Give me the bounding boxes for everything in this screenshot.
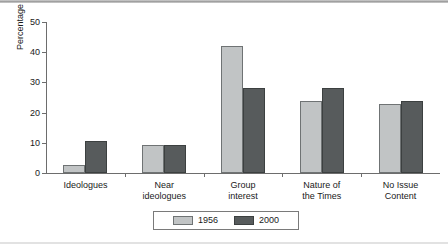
x-axis-category-line: Group — [204, 180, 283, 191]
x-axis-category-line: interest — [204, 191, 283, 202]
y-axis-line — [46, 22, 47, 173]
x-axis-tick — [282, 173, 283, 177]
x-axis-category-label: Ideologues — [46, 180, 125, 191]
bar-1956-3 — [300, 101, 322, 173]
y-axis-tick-label: 20 — [30, 108, 40, 117]
x-axis-category-line: the Times — [282, 191, 361, 202]
bar-2000-4 — [401, 101, 423, 173]
x-axis-tick — [125, 173, 126, 177]
x-axis-category-line: No Issue — [361, 180, 440, 191]
bar-group — [63, 22, 107, 173]
bar-group — [379, 22, 423, 173]
bar-1956-2 — [221, 46, 243, 173]
x-axis-category-line: Nature of — [282, 180, 361, 191]
y-axis-tick — [42, 173, 46, 174]
top-edge-band — [0, 0, 448, 3]
x-axis-category-label: Groupinterest — [204, 180, 283, 202]
y-axis-title-text: Percentage — [15, 4, 25, 50]
y-axis-tick-label: 30 — [30, 78, 40, 87]
y-axis-tick — [42, 143, 46, 144]
x-axis-category-label: Nature ofthe Times — [282, 180, 361, 202]
bar-1956-1 — [142, 145, 164, 173]
bar-group — [142, 22, 186, 173]
x-axis-tick — [361, 173, 362, 177]
y-axis-tick-label: 40 — [30, 48, 40, 57]
x-axis-line — [46, 173, 440, 174]
y-axis-tick — [42, 113, 46, 114]
chart-legend: 1956 2000 — [153, 211, 299, 230]
chart-figure: Percentage 01020304050IdeologuesNearideo… — [0, 0, 448, 244]
legend-item-2000: 2000 — [234, 216, 279, 225]
bar-1956-4 — [379, 104, 401, 173]
x-axis-tick — [204, 173, 205, 177]
x-axis-category-line: Ideologues — [46, 180, 125, 191]
bar-group — [221, 22, 265, 173]
bar-2000-0 — [85, 141, 107, 173]
legend-swatch-2000 — [234, 216, 254, 225]
x-axis-category-label: Nearideologues — [125, 180, 204, 202]
y-axis-tick — [42, 22, 46, 23]
x-axis-category-line: ideologues — [125, 191, 204, 202]
y-axis-tick-label: 10 — [30, 138, 40, 147]
x-axis-category-line: Near — [125, 180, 204, 191]
y-axis-tick — [42, 52, 46, 53]
legend-item-1956: 1956 — [173, 216, 218, 225]
x-axis-category-line: Content — [361, 191, 440, 202]
bar-1956-0 — [63, 165, 85, 173]
plot-area: 01020304050IdeologuesNearideologuesGroup… — [46, 22, 440, 173]
legend-label-2000: 2000 — [259, 216, 279, 225]
legend-swatch-1956 — [173, 216, 193, 225]
y-axis-tick — [42, 82, 46, 83]
bar-2000-3 — [322, 88, 344, 173]
y-axis-tick-label: 0 — [35, 169, 40, 178]
y-axis-tick-label: 50 — [30, 18, 40, 27]
legend-label-1956: 1956 — [198, 216, 218, 225]
x-axis-category-label: No IssueContent — [361, 180, 440, 202]
bar-2000-2 — [243, 88, 265, 173]
bar-group — [300, 22, 344, 173]
bar-2000-1 — [164, 145, 186, 173]
